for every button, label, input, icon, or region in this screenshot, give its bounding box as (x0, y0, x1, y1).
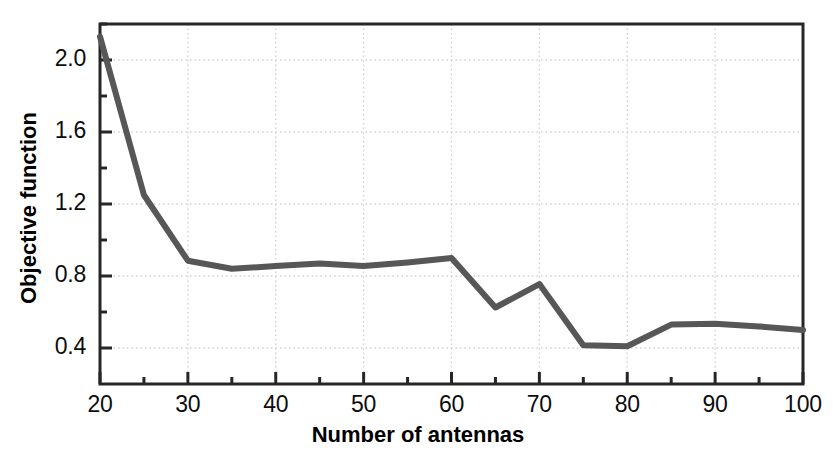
gridlines (100, 24, 803, 384)
x-tick-label: 30 (148, 391, 228, 418)
x-tick-label: 70 (499, 391, 579, 418)
y-axis-title: Objective function (16, 112, 42, 304)
plot-canvas (0, 0, 836, 458)
x-tick-label: 20 (60, 391, 140, 418)
x-axis-title: Number of antennas (0, 422, 836, 448)
x-tick-label: 90 (675, 391, 755, 418)
x-tick-label: 100 (763, 391, 836, 418)
x-tick-label: 60 (412, 391, 492, 418)
chart-figure: 0.40.81.21.62.0 2030405060708090100 Obje… (0, 0, 836, 458)
x-tick-label: 40 (236, 391, 316, 418)
y-tick-label: 1.2 (55, 189, 86, 216)
y-tick-label: 2.0 (55, 45, 86, 72)
x-tick-label: 50 (324, 391, 404, 418)
y-tick-label: 0.4 (55, 333, 86, 360)
y-tick-label: 1.6 (55, 117, 86, 144)
x-tick-label: 80 (587, 391, 667, 418)
y-tick-label: 0.8 (55, 261, 86, 288)
